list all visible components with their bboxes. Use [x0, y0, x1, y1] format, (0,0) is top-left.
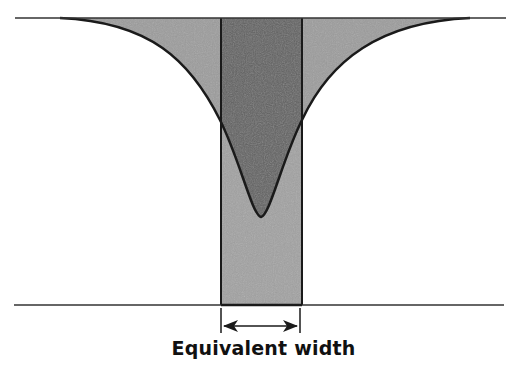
equivalent-width-diagram: [0, 0, 527, 380]
width-arrow: [221, 308, 300, 333]
equivalent-width-label: Equivalent width: [0, 337, 527, 359]
